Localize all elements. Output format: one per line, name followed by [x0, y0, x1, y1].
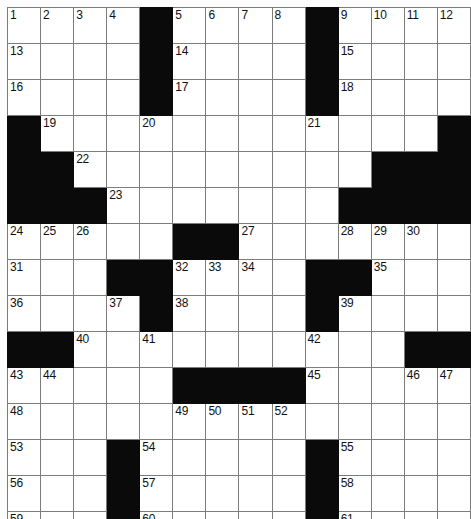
crossword-cell[interactable]: 47 [437, 368, 470, 404]
crossword-cell[interactable] [371, 404, 404, 440]
crossword-cell[interactable] [371, 332, 404, 368]
crossword-cell[interactable] [338, 332, 371, 368]
crossword-cell[interactable] [173, 476, 206, 512]
crossword-cell[interactable]: 60 [140, 512, 173, 519]
crossword-cell[interactable]: 27 [239, 224, 272, 260]
crossword-cell[interactable]: 5 [173, 8, 206, 44]
crossword-cell[interactable] [74, 476, 107, 512]
crossword-cell[interactable]: 26 [74, 224, 107, 260]
crossword-cell[interactable]: 24 [8, 224, 41, 260]
crossword-cell[interactable] [239, 440, 272, 476]
crossword-cell[interactable] [41, 404, 74, 440]
crossword-cell[interactable]: 19 [41, 116, 74, 152]
crossword-cell[interactable]: 41 [140, 332, 173, 368]
crossword-cell[interactable]: 17 [173, 80, 206, 116]
crossword-cell[interactable]: 52 [272, 404, 305, 440]
crossword-cell[interactable]: 7 [239, 8, 272, 44]
crossword-cell[interactable]: 51 [239, 404, 272, 440]
crossword-cell[interactable] [239, 332, 272, 368]
crossword-cell[interactable]: 36 [8, 296, 41, 332]
crossword-cell[interactable] [206, 80, 239, 116]
crossword-cell[interactable] [437, 44, 470, 80]
crossword-cell[interactable]: 57 [140, 476, 173, 512]
crossword-cell[interactable]: 34 [239, 260, 272, 296]
crossword-cell[interactable] [206, 44, 239, 80]
crossword-cell[interactable] [404, 512, 437, 519]
crossword-cell[interactable] [239, 152, 272, 188]
crossword-cell[interactable] [404, 404, 437, 440]
crossword-cell[interactable]: 15 [338, 44, 371, 80]
crossword-cell[interactable] [206, 476, 239, 512]
crossword-cell[interactable] [272, 260, 305, 296]
crossword-cell[interactable]: 37 [107, 296, 140, 332]
crossword-cell[interactable]: 42 [305, 332, 338, 368]
crossword-cell[interactable] [206, 188, 239, 224]
crossword-cell[interactable] [173, 116, 206, 152]
crossword-cell[interactable]: 3 [74, 8, 107, 44]
crossword-cell[interactable] [140, 152, 173, 188]
crossword-cell[interactable] [305, 224, 338, 260]
crossword-cell[interactable] [239, 476, 272, 512]
crossword-cell[interactable] [107, 368, 140, 404]
crossword-cell[interactable] [74, 44, 107, 80]
crossword-cell[interactable]: 49 [173, 404, 206, 440]
crossword-cell[interactable]: 9 [338, 8, 371, 44]
crossword-cell[interactable] [272, 80, 305, 116]
crossword-cell[interactable] [404, 80, 437, 116]
crossword-cell[interactable] [206, 440, 239, 476]
crossword-cell[interactable]: 54 [140, 440, 173, 476]
crossword-cell[interactable]: 50 [206, 404, 239, 440]
crossword-cell[interactable] [371, 368, 404, 404]
crossword-cell[interactable] [41, 44, 74, 80]
crossword-cell[interactable] [272, 512, 305, 519]
crossword-cell[interactable] [206, 332, 239, 368]
crossword-cell[interactable]: 32 [173, 260, 206, 296]
crossword-cell[interactable] [74, 116, 107, 152]
crossword-cell[interactable] [74, 368, 107, 404]
crossword-cell[interactable]: 33 [206, 260, 239, 296]
crossword-cell[interactable] [371, 116, 404, 152]
crossword-cell[interactable]: 31 [8, 260, 41, 296]
crossword-cell[interactable]: 38 [173, 296, 206, 332]
crossword-cell[interactable]: 48 [8, 404, 41, 440]
crossword-cell[interactable] [272, 116, 305, 152]
crossword-cell[interactable]: 16 [8, 80, 41, 116]
crossword-cell[interactable] [74, 80, 107, 116]
crossword-cell[interactable] [371, 476, 404, 512]
crossword-cell[interactable]: 1 [8, 8, 41, 44]
crossword-cell[interactable] [338, 368, 371, 404]
crossword-cell[interactable] [239, 188, 272, 224]
crossword-cell[interactable] [272, 440, 305, 476]
crossword-cell[interactable] [107, 80, 140, 116]
crossword-cell[interactable]: 44 [41, 368, 74, 404]
crossword-cell[interactable]: 53 [8, 440, 41, 476]
crossword-cell[interactable]: 25 [41, 224, 74, 260]
crossword-cell[interactable]: 2 [41, 8, 74, 44]
crossword-cell[interactable] [437, 260, 470, 296]
crossword-cell[interactable] [272, 44, 305, 80]
crossword-cell[interactable] [107, 332, 140, 368]
crossword-cell[interactable] [272, 296, 305, 332]
crossword-cell[interactable] [173, 152, 206, 188]
crossword-cell[interactable] [371, 44, 404, 80]
crossword-cell[interactable]: 59 [8, 512, 41, 519]
crossword-cell[interactable]: 45 [305, 368, 338, 404]
crossword-cell[interactable] [437, 440, 470, 476]
crossword-cell[interactable]: 35 [371, 260, 404, 296]
crossword-cell[interactable] [437, 296, 470, 332]
crossword-cell[interactable] [74, 404, 107, 440]
crossword-cell[interactable] [239, 512, 272, 519]
crossword-cell[interactable]: 30 [404, 224, 437, 260]
crossword-cell[interactable] [404, 440, 437, 476]
crossword-cell[interactable]: 13 [8, 44, 41, 80]
crossword-cell[interactable]: 55 [338, 440, 371, 476]
crossword-cell[interactable] [173, 188, 206, 224]
crossword-cell[interactable]: 8 [272, 8, 305, 44]
crossword-cell[interactable] [239, 44, 272, 80]
crossword-cell[interactable]: 14 [173, 44, 206, 80]
crossword-cell[interactable]: 4 [107, 8, 140, 44]
crossword-cell[interactable]: 39 [338, 296, 371, 332]
crossword-cell[interactable] [107, 152, 140, 188]
crossword-cell[interactable] [107, 44, 140, 80]
crossword-cell[interactable] [41, 260, 74, 296]
